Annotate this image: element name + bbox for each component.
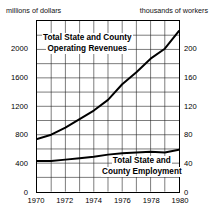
right-axis-tick-200: 200 bbox=[184, 44, 212, 53]
left-axis-tick-400: 400 bbox=[0, 159, 32, 168]
annotation-revenues-line1: Total State and County bbox=[42, 33, 133, 44]
annotation-employment-line1: Total State and bbox=[112, 156, 172, 167]
chart-figure: millions of dollars thousands of workers… bbox=[0, 0, 212, 216]
right-axis-tick-80: 80 bbox=[184, 130, 212, 139]
annotation-revenues-line2: Operating Revenues bbox=[46, 44, 128, 55]
left-axis-tick-1600: 1600 bbox=[0, 73, 32, 82]
right-axis-tick-40: 40 bbox=[184, 159, 212, 168]
right-axis-caption: thousands of workers bbox=[140, 6, 208, 15]
left-axis-tick-2000: 2000 bbox=[0, 44, 32, 53]
annotation-employment: Total State and County Employment bbox=[101, 156, 183, 177]
right-axis-tick-160: 160 bbox=[184, 73, 212, 82]
left-axis-tick-800: 800 bbox=[0, 130, 32, 139]
left-axis-tick-1200: 1200 bbox=[0, 102, 32, 111]
left-axis-caption: millions of dollars bbox=[6, 6, 61, 15]
annotation-employment-line2: County Employment bbox=[101, 167, 183, 178]
annotation-revenues: Total State and County Operating Revenue… bbox=[42, 33, 133, 54]
x-axis-tick-1980: 1980 bbox=[160, 196, 200, 205]
right-axis-tick-120: 120 bbox=[184, 102, 212, 111]
